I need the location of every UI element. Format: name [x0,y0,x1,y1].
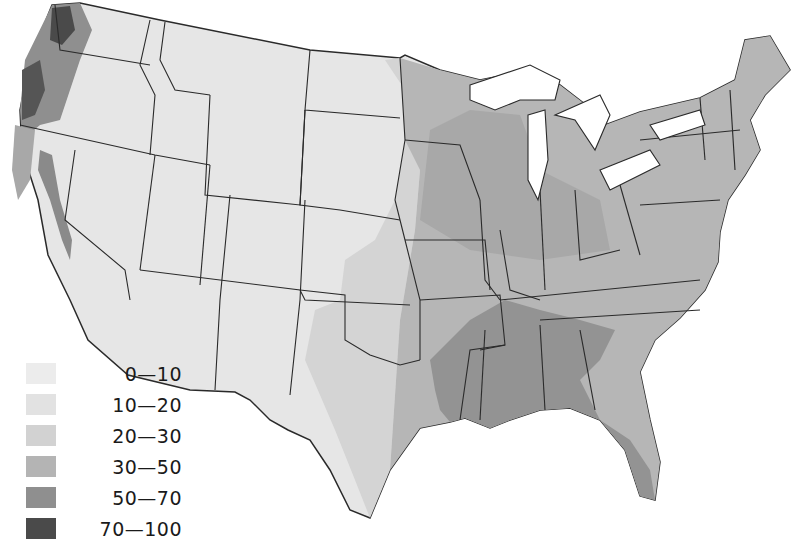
legend-swatch-50-70 [26,487,56,508]
legend-label: 0—10 [72,363,182,385]
legend-label: 70—100 [72,518,182,540]
legend-swatch-20-30 [26,425,56,446]
legend-swatch-30-50 [26,456,56,477]
legend-swatch-0-10 [26,363,56,384]
legend-item: 0—10 [26,358,186,389]
legend-item: 30—50 [26,451,186,482]
legend-swatch-10-20 [26,394,56,415]
legend-item: 20—30 [26,420,186,451]
zone-norcal-coast [12,125,35,200]
legend-item: 10—20 [26,389,186,420]
legend-item: 50—70 [26,482,186,513]
legend-label: 10—20 [72,394,182,416]
legend: 0—10 10—20 20—30 30—50 50—70 70—100 [26,358,186,543]
legend-label: 20—30 [72,425,182,447]
legend-label: 30—50 [72,456,182,478]
legend-swatch-70-100 [26,518,56,539]
legend-item: 70—100 [26,513,186,543]
legend-label: 50—70 [72,487,182,509]
